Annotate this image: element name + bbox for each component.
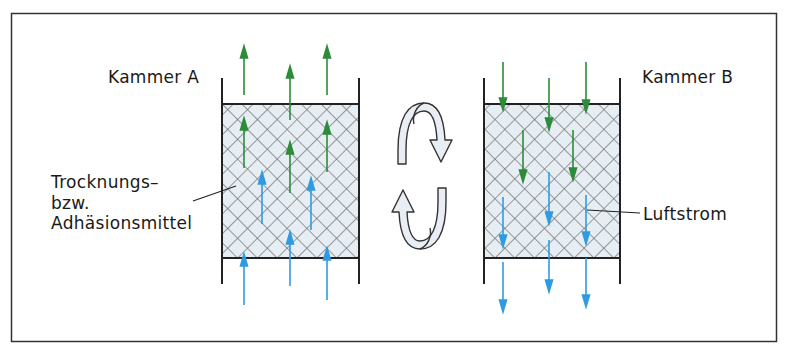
medium-label-line1: Trocknungs–: [51, 172, 159, 192]
chamber-a: [222, 46, 359, 305]
chamber-b: [484, 62, 620, 312]
medium-label-line2: bzw.: [51, 193, 90, 213]
cycle-arrows-icon: [392, 103, 452, 249]
chamber-a-label: Kammer A: [108, 67, 199, 87]
medium-label-line3: Adhäsionsmittel: [51, 213, 192, 233]
chamber-b-label: Kammer B: [642, 67, 733, 87]
airflow-label: Luftstrom: [643, 204, 727, 224]
